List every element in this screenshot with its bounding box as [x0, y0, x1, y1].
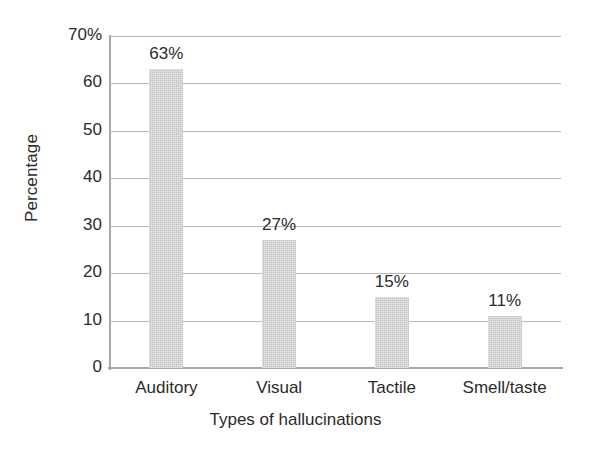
y-axis-tick-label: 30: [28, 215, 102, 235]
bar-chart: Percentage 70%6050403020100 63%27%15%11%…: [0, 0, 591, 461]
y-axis-tick-label: 70%: [28, 25, 102, 45]
bar-value-label: 11%: [460, 291, 550, 311]
y-axis-tick-label: 60: [28, 72, 102, 92]
y-axis-tick-label: 10: [28, 310, 102, 330]
x-axis-tick-label: Smell/taste: [430, 378, 580, 398]
bar-value-label: 63%: [121, 44, 211, 64]
bar-value-label: 15%: [347, 272, 437, 292]
plot-area: 63%27%15%11%: [110, 36, 561, 368]
y-axis-tick-label: 40: [28, 167, 102, 187]
y-axis-tick-label: 0: [28, 357, 102, 377]
bar[interactable]: [488, 316, 522, 368]
grid-line: [110, 36, 561, 37]
bar[interactable]: [262, 240, 296, 368]
bar-value-label: 27%: [234, 215, 324, 235]
x-axis-title: Types of hallucinations: [0, 410, 591, 430]
y-axis-tick-label: 20: [28, 262, 102, 282]
y-axis-tick-label: 50: [28, 120, 102, 140]
bar[interactable]: [375, 297, 409, 368]
bar[interactable]: [149, 69, 183, 368]
